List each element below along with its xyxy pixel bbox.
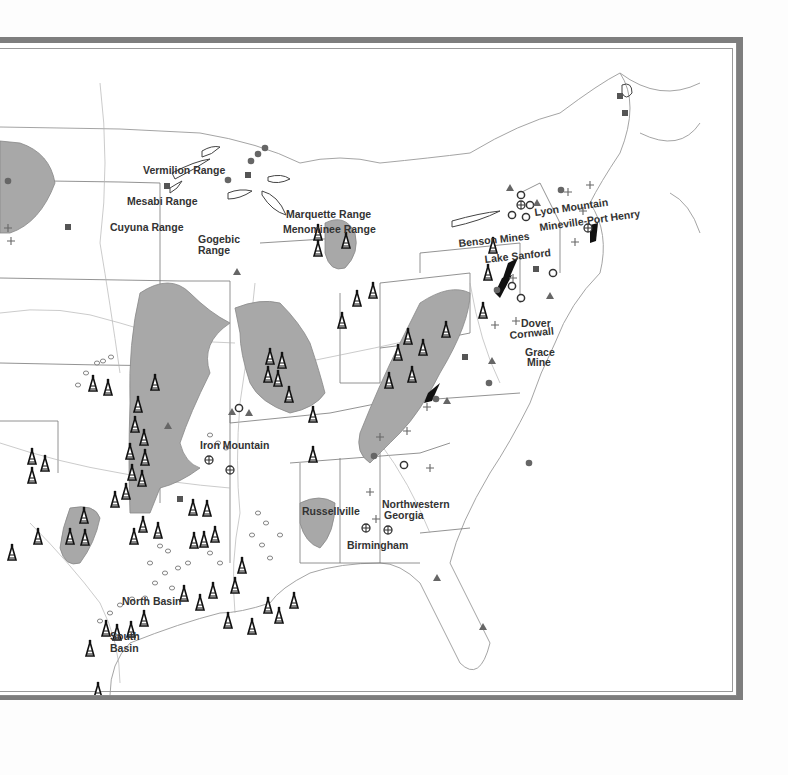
label-grace-2: Mine (527, 356, 551, 368)
oil-field-symbols (8, 224, 497, 695)
label-gogebic-2: Range (198, 244, 230, 256)
label-menominee: Menominee Range (283, 223, 376, 235)
label-south-basin-1: South (110, 630, 140, 642)
range-menominee (262, 191, 286, 215)
resource-map[interactable]: Vermilion Range Mesabi Range Cuyuna Rang… (0, 43, 736, 695)
basin-permian (60, 507, 100, 564)
range-marquette (268, 175, 290, 182)
label-vermilion: Vermilion Range (143, 164, 225, 176)
label-russellville: Russellville (302, 505, 360, 517)
range-lake-sanford (452, 211, 500, 227)
label-mesabi: Mesabi Range (127, 195, 198, 207)
label-south-basin-2: Basin (110, 642, 139, 654)
range-vermilion (202, 147, 220, 158)
range-maine (622, 84, 632, 97)
basin-northwest (0, 141, 55, 233)
label-birmingham: Birmingham (347, 539, 408, 551)
range-gogebic (228, 190, 252, 199)
label-north-basin: North Basin (122, 595, 182, 607)
label-iron-mountain: Iron Mountain (200, 439, 269, 451)
label-marquette: Marquette Range (286, 208, 371, 220)
label-cuyuna: Cuyuna Range (110, 221, 184, 233)
range-cuyuna (170, 181, 182, 193)
label-cornwall: Cornwall (509, 324, 554, 341)
label-nw-georgia-2: Georgia (384, 509, 424, 521)
basin-illinois (235, 301, 325, 413)
